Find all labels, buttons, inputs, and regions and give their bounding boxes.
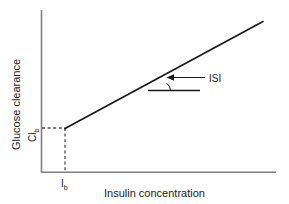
isi-angle-arc — [167, 83, 171, 90]
y-axis-title: Glucose clearance — [10, 59, 22, 150]
y-tick-label-sub: b — [33, 129, 40, 133]
x-axis-tick-label: Ib — [61, 178, 68, 191]
y-axis-tick-label: Clb — [27, 129, 40, 142]
x-axis-title: Insulin concentration — [104, 187, 205, 199]
x-tick-label-sub: b — [64, 184, 68, 191]
figure-root: ISI Glucose clearance Clb Ib Insulin con… — [0, 0, 289, 204]
data-line — [65, 22, 263, 129]
svg-text:Clb: Clb — [27, 129, 40, 142]
glucose-clearance-insulin-plot: ISI Glucose clearance Clb Ib Insulin con… — [0, 0, 289, 204]
isi-label: ISI — [209, 73, 221, 84]
isi-arrowhead-icon — [167, 74, 175, 80]
y-tick-label-main: Cl — [27, 133, 38, 142]
